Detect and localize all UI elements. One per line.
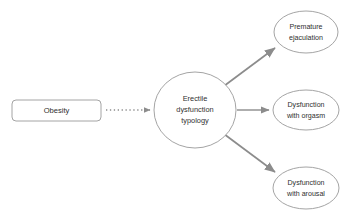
edge-typology-to-dysfunction-with-arousal	[224, 134, 275, 172]
diagram-canvas: Obesity Erectile dysfunction typology Pr…	[0, 0, 344, 217]
premature-ejaculation-label-line-1: Premature	[289, 23, 322, 31]
typology-label-line-1: Erectile	[183, 94, 208, 103]
premature-ejaculation-ellipse-shape	[274, 11, 338, 53]
node-dysfunction-with-orgasm[interactable]: Dysfunction with orgasm	[273, 90, 339, 130]
dysfunction-with-orgasm-ellipse-shape	[273, 90, 339, 130]
obesity-label: Obesity	[44, 106, 70, 115]
dysfunction-with-orgasm-label-line-1: Dysfunction	[287, 101, 324, 109]
edge-typology-to-premature-ejaculation	[224, 48, 275, 86]
premature-ejaculation-label-line-2: ejaculation	[289, 34, 323, 42]
typology-label-line-3: typology	[181, 116, 209, 125]
node-dysfunction-with-arousal[interactable]: Dysfunction with arousal	[273, 167, 339, 209]
path-diagram: Obesity Erectile dysfunction typology Pr…	[0, 0, 344, 217]
dysfunction-with-arousal-ellipse-shape	[273, 167, 339, 209]
node-erectile-dysfunction-typology[interactable]: Erectile dysfunction typology	[154, 72, 236, 148]
dysfunction-with-arousal-label-line-2: with arousal	[286, 190, 325, 198]
typology-label-line-2: dysfunction	[176, 105, 213, 114]
node-premature-ejaculation[interactable]: Premature ejaculation	[274, 11, 338, 53]
dysfunction-with-orgasm-label-line-2: with orgasm	[286, 112, 325, 120]
dysfunction-with-arousal-label-line-1: Dysfunction	[287, 179, 324, 187]
node-obesity[interactable]: Obesity	[12, 100, 101, 121]
